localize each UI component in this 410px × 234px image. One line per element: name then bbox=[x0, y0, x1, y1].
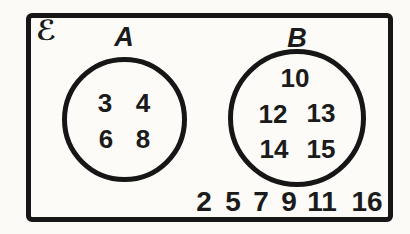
outside-element: 5 bbox=[225, 188, 241, 216]
outside-element: 11 bbox=[307, 188, 337, 216]
outside-element: 2 bbox=[196, 188, 212, 216]
set-diagram-figure: ℰ A B 3 4 6 8 10 12 13 14 15 2 5 7 9 11 … bbox=[0, 0, 410, 234]
set-b-element: 10 bbox=[281, 65, 310, 91]
set-a-element: 4 bbox=[136, 90, 150, 116]
outside-element: 16 bbox=[351, 188, 382, 216]
set-b-element: 14 bbox=[260, 136, 289, 162]
set-b-element: 15 bbox=[307, 136, 336, 162]
set-a-label: A bbox=[114, 24, 134, 51]
set-b-element: 13 bbox=[307, 100, 336, 126]
set-b-element: 12 bbox=[259, 101, 288, 127]
set-a-element: 3 bbox=[98, 90, 112, 116]
outside-element: 9 bbox=[281, 188, 297, 216]
universal-set-symbol: ℰ bbox=[36, 17, 56, 45]
set-a-circle bbox=[62, 57, 187, 182]
outside-element: 7 bbox=[253, 188, 269, 216]
set-a-element: 6 bbox=[99, 126, 113, 152]
set-b-label: B bbox=[287, 25, 307, 52]
set-a-element: 8 bbox=[136, 126, 150, 152]
